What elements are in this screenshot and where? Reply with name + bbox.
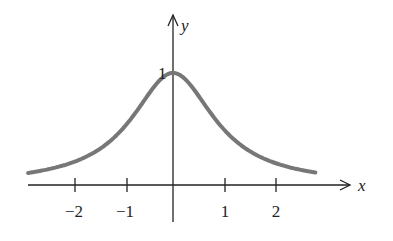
x-tick-label: 2 — [272, 202, 281, 221]
peak-label: 1 — [158, 64, 167, 83]
x-tick-label: −2 — [65, 202, 83, 221]
x-tick-label: 1 — [221, 202, 230, 221]
chart: −2 −1 1 2 1 x y — [0, 0, 393, 241]
x-axis-label: x — [357, 176, 366, 195]
y-axis-label: y — [179, 16, 189, 35]
curve-line — [28, 73, 315, 173]
x-tick-label: −1 — [116, 202, 134, 221]
